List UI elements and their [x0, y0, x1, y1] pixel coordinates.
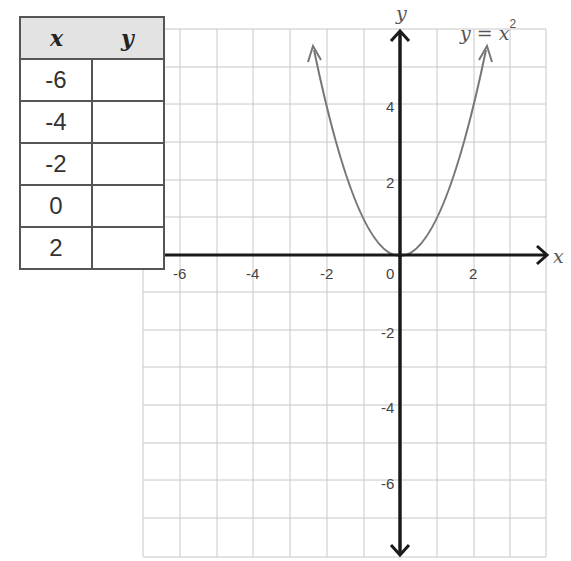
- equation-label: y = x2: [459, 17, 516, 44]
- y-axis-label: y: [395, 2, 407, 24]
- x-tick-label: -4: [246, 265, 259, 282]
- x-value-cell: 0: [21, 185, 92, 227]
- x-value-cell: -6: [21, 59, 92, 101]
- table-row: -4: [21, 101, 163, 143]
- x-tick-label: 0: [386, 265, 394, 282]
- x-tick-label: -2: [320, 265, 333, 282]
- y-tick-label: -2: [381, 324, 394, 341]
- table-row: 0: [21, 185, 163, 227]
- table-header-y: y: [92, 18, 163, 59]
- x-value-cell: 2: [21, 227, 92, 268]
- x-tick-label: -6: [173, 265, 186, 282]
- y-tick-label: -6: [381, 475, 394, 492]
- table-row: -6: [21, 59, 163, 101]
- table-header-x: x: [21, 18, 92, 59]
- table-row: 2: [21, 227, 163, 268]
- y-value-cell[interactable]: [92, 185, 163, 227]
- y-value-cell[interactable]: [92, 143, 163, 185]
- values-table: x y -6 -4 -2 0 2: [19, 16, 165, 270]
- table-row: -2: [21, 143, 163, 185]
- y-tick-label: -4: [381, 399, 394, 416]
- x-axis-label: x: [553, 245, 564, 267]
- y-value-cell[interactable]: [92, 59, 163, 101]
- x-value-cell: -4: [21, 101, 92, 143]
- x-tick-label: 2: [469, 265, 477, 282]
- y-value-cell[interactable]: [92, 101, 163, 143]
- equation-exponent: 2: [509, 17, 516, 31]
- y-tick-label: 2: [386, 174, 394, 191]
- y-tick-label: 4: [386, 98, 394, 115]
- x-value-cell: -2: [21, 143, 92, 185]
- grid: [143, 29, 546, 557]
- y-value-cell[interactable]: [92, 227, 163, 268]
